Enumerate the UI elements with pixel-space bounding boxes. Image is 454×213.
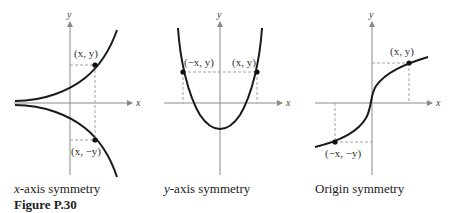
figure-label: Figure P.30 xyxy=(14,197,77,213)
point-label: (x, y) xyxy=(390,45,414,58)
y-axis-label: y xyxy=(66,9,72,20)
point-x-y xyxy=(254,69,259,74)
caption-text: -axis symmetry xyxy=(170,181,251,196)
caption-y-axis-symmetry: y-axis symmetry xyxy=(164,181,250,197)
panel-y-axis-symmetry: x y (−x, y) (x, y) xyxy=(164,9,291,175)
caption-x-axis-symmetry: x-axis symmetry xyxy=(14,181,100,197)
x-axis-label: x xyxy=(285,97,291,108)
point-label: (x, −y) xyxy=(71,145,101,158)
upper-curve xyxy=(15,30,117,101)
point-x-y xyxy=(406,60,411,65)
point-x-neg-y xyxy=(92,137,97,142)
lower-curve xyxy=(15,105,117,177)
y-axis-label: y xyxy=(216,9,222,20)
point-label: (x, y) xyxy=(232,56,256,69)
point-neg-x-y xyxy=(180,69,185,74)
x-axis-label: x xyxy=(435,97,441,108)
point-label: (−x, −y) xyxy=(325,147,362,160)
y-axis-label: y xyxy=(368,9,374,20)
point-label: (x, y) xyxy=(74,47,98,60)
point-label: (−x, y) xyxy=(184,56,214,69)
point-x-y xyxy=(92,62,97,67)
panel-x-axis-symmetry: x y (x, y) (x, −y) xyxy=(14,9,141,177)
caption-origin-symmetry: Origin symmetry xyxy=(315,181,404,197)
caption-text: -axis symmetry xyxy=(20,181,101,196)
x-axis-label: x xyxy=(135,97,141,108)
panel-origin-symmetry: x y (x, y) (−x, −y) xyxy=(315,9,441,175)
point-neg-x-neg-y xyxy=(332,139,337,144)
caption-text: Origin symmetry xyxy=(315,181,404,196)
